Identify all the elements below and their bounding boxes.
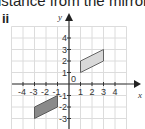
x-tick-label: 3 <box>101 87 106 97</box>
y-tick-label: 4 <box>62 33 67 43</box>
y-tick-label: -2 <box>59 102 67 112</box>
y-tick-label: -3 <box>59 114 67 124</box>
x-tick-label: 1 <box>78 87 83 97</box>
x-tick-label: -4 <box>18 87 26 97</box>
y-tick-label: 1 <box>62 68 67 78</box>
tick-labels: -4-3-2-112344321-1-2-3 <box>18 33 118 124</box>
y-axis-label: y <box>57 12 62 22</box>
y-tick-label: 2 <box>62 56 67 66</box>
y-tick-label: -1 <box>59 91 67 101</box>
x-tick-label: -3 <box>30 87 38 97</box>
coordinate-diagram: -4-3-2-112344321-1-2-3 x y 0 <box>0 0 145 129</box>
x-tick-label: -2 <box>41 87 49 97</box>
x-tick-label: 4 <box>113 87 118 97</box>
y-axis-arrow-icon <box>65 13 73 21</box>
origin-label: 0 <box>71 74 76 84</box>
x-axis-label: x <box>137 90 142 100</box>
y-tick-label: 3 <box>62 45 67 55</box>
x-axis-arrow-icon <box>134 80 141 88</box>
x-tick-label: 2 <box>90 87 95 97</box>
